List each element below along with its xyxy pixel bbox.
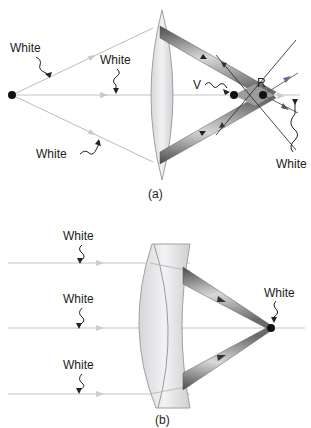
squiggle-icon <box>274 301 278 317</box>
arrow-icon <box>281 103 289 110</box>
out-ray-up2 <box>263 73 298 95</box>
arrow-icon <box>96 391 104 397</box>
out-ray-up <box>216 40 296 135</box>
squiggle-icon <box>36 57 49 76</box>
panel-a: White White White V R White (a) <box>8 10 307 201</box>
out-ray-down2 <box>263 95 298 113</box>
source-point <box>8 91 16 99</box>
label-ray-axis-a: White <box>100 53 131 67</box>
arrow-icon <box>96 260 104 266</box>
label-virtual-point: V <box>193 78 201 92</box>
arrow-icon <box>96 325 104 331</box>
real-point-r <box>259 91 267 99</box>
arrow-icon <box>88 129 96 135</box>
label-ray-bottom-b: White <box>63 358 94 372</box>
label-focus-b: White <box>264 286 295 300</box>
virtual-point-v <box>230 91 238 99</box>
ray-top-a <box>12 28 153 95</box>
panel-b: White White White White (b) <box>8 229 305 427</box>
arrow-icon <box>277 92 285 99</box>
label-real-point: R <box>257 76 266 90</box>
arrow-icon <box>100 92 108 98</box>
squiggle-icon <box>80 144 99 154</box>
label-ray-bottom-a: White <box>36 147 67 161</box>
meniscus-lens <box>139 244 190 408</box>
squiggle-icon <box>79 374 84 390</box>
squiggle-icon <box>205 83 227 89</box>
focal-point <box>267 324 275 332</box>
caption-a: (a) <box>148 187 163 201</box>
caption-b: (b) <box>155 413 170 427</box>
optics-diagram: White White White V R White (a) <box>0 0 311 428</box>
squiggle-icon <box>79 308 84 325</box>
label-ray-top-a: White <box>10 41 41 55</box>
arrow-icon <box>88 55 96 61</box>
label-outgoing-a: White <box>276 157 307 171</box>
squiggle-icon <box>114 69 120 89</box>
arrow-icon <box>292 99 298 105</box>
arrow-icon <box>113 88 119 94</box>
arrow-icon <box>95 139 101 146</box>
label-ray-top-b: White <box>63 229 94 243</box>
light-cone-bottom-b <box>183 326 272 390</box>
out-ray-down <box>216 55 296 150</box>
arrow-icon <box>271 317 277 323</box>
label-ray-mid-b: White <box>63 292 94 306</box>
light-cone-top-b <box>183 267 272 330</box>
arrow-icon <box>223 89 230 95</box>
arrow-icon <box>76 388 82 394</box>
